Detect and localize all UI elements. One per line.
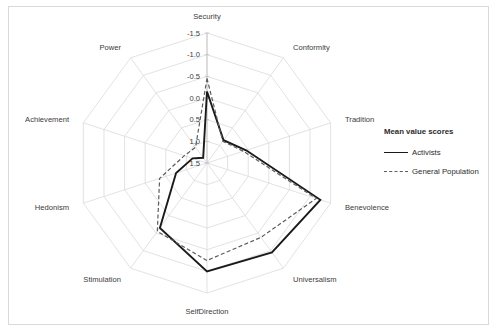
category-label-security: Security xyxy=(193,12,221,21)
grid-spoke-1 xyxy=(207,58,283,163)
legend-item-general-population: General Population xyxy=(384,166,490,176)
category-label-hedonism: Hedonism xyxy=(35,203,69,212)
category-label-selfdirection: SelfDirection xyxy=(185,307,228,316)
legend-swatch-dashed-icon xyxy=(384,166,408,176)
legend-swatch-solid-icon xyxy=(384,147,408,157)
category-label-achievement: Achievement xyxy=(25,115,70,124)
category-label-power: Power xyxy=(99,43,121,52)
category-label-benevolence: Benevolence xyxy=(345,203,389,212)
tick-label-5: 1.0 xyxy=(189,137,200,146)
category-label-conformity: Conformity xyxy=(293,43,330,52)
tick-label-1: -1.0 xyxy=(187,50,200,59)
legend-label-activists: Activists xyxy=(412,148,441,157)
legend-label-general-population: General Population xyxy=(412,167,479,176)
category-label-stimulation: Stimulation xyxy=(83,275,121,284)
tick-label-3: 0.0 xyxy=(189,94,200,103)
legend-item-activists: Activists xyxy=(384,147,490,157)
tick-label-4: 0.5 xyxy=(189,115,200,124)
series-activists xyxy=(160,92,320,272)
grid-spoke-6 xyxy=(131,163,207,268)
chart-legend: Mean value scores Activists General Popu… xyxy=(384,127,490,185)
tick-label-0: -1.5 xyxy=(187,29,200,38)
category-label-tradition: Tradition xyxy=(345,115,374,124)
legend-title: Mean value scores xyxy=(384,127,490,136)
tick-label-2: -0.5 xyxy=(187,72,200,81)
category-label-universalism: Universalism xyxy=(293,275,336,284)
radar-chart-screenshot: SecurityConformityTraditionBenevolenceUn… xyxy=(0,0,497,333)
series-paths xyxy=(157,79,320,272)
